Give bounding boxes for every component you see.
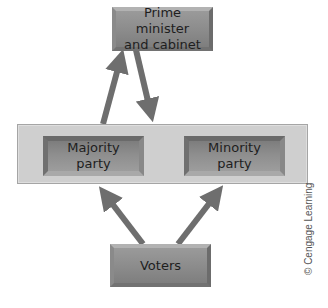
minority-label-line1: Minority bbox=[208, 140, 261, 156]
executive-label-line2: and cabinet bbox=[116, 37, 209, 53]
minority-party-node: Minority party bbox=[184, 136, 285, 176]
voters-label: Voters bbox=[140, 258, 181, 274]
arrow-executive-to-parliament bbox=[136, 50, 151, 114]
executive-node: Prime minister and cabinet bbox=[112, 7, 213, 51]
voters-node: Voters bbox=[110, 244, 211, 287]
majority-label-line2: party bbox=[67, 156, 120, 172]
copyright-credit: © Cengage Learning bbox=[303, 183, 314, 275]
majority-label-line1: Majority bbox=[67, 140, 120, 156]
minority-label-line2: party bbox=[208, 156, 261, 172]
arrow-majority-to-executive bbox=[103, 57, 121, 124]
majority-party-node: Majority party bbox=[43, 136, 144, 176]
arrow-voters-to-minority bbox=[178, 192, 218, 244]
arrow-voters-to-majority bbox=[104, 193, 143, 244]
executive-label-line1: Prime minister bbox=[116, 5, 209, 37]
